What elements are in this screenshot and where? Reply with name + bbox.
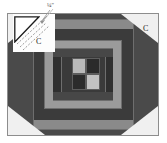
seam-line-bottom-mid	[44, 108, 122, 109]
seam-line-bottom-outer	[33, 129, 133, 130]
seam-line-right-mid	[121, 40, 122, 109]
seam-line-left-inner	[61, 57, 62, 92]
seam-line-bottom-inner	[53, 100, 113, 101]
seam-line-top-mid	[44, 40, 122, 41]
seam-line-right-inner	[105, 57, 106, 92]
seam-line-right-outer	[133, 19, 134, 130]
center-patch-top-right	[86, 58, 100, 74]
center-patch-top-left	[72, 58, 86, 74]
seam-line-top-inner	[53, 48, 113, 49]
center-patch-bottom-left	[72, 74, 86, 90]
quilt-diagram-canvas: C C ¼"	[0, 0, 167, 143]
center-patch-bottom-right	[86, 74, 100, 90]
seam-allowance-note: ¼"	[47, 2, 54, 8]
seam-detail-corner-label: C	[36, 38, 41, 46]
corner-patch-label-top-right: C	[143, 25, 148, 33]
